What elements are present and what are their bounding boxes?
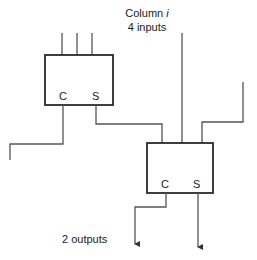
- column-header-caption: Column i 4 inputs: [112, 6, 182, 34]
- adder-1-box: [45, 55, 113, 105]
- column-header-line1: Column i: [112, 6, 182, 20]
- adder-2-box: [147, 143, 213, 193]
- adder1-carry-output-wire: [10, 105, 63, 160]
- adder1-sum-to-adder2-wire: [96, 105, 162, 143]
- adder2-carry-output-arrow: [135, 193, 166, 244]
- outputs-caption: 2 outputs: [62, 232, 107, 246]
- adder-2-sum-label: S: [193, 178, 200, 190]
- column-header-index: i: [166, 7, 168, 19]
- adder-2-carry-label: C: [161, 178, 169, 190]
- column-header-prefix: Column: [125, 7, 163, 19]
- adder-1-carry-label: C: [59, 90, 67, 102]
- incoming-carry-wire: [202, 82, 243, 143]
- adder-1-sum-label: S: [92, 90, 99, 102]
- diagram-canvas: C S C S: [0, 0, 257, 260]
- column-header-line2: 4 inputs: [112, 20, 182, 34]
